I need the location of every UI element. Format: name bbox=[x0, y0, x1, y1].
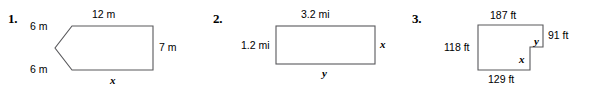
problem-3-bottom-label: 129 ft bbox=[488, 74, 514, 85]
rectangle-shape bbox=[200, 0, 400, 102]
problem-1-upper-left-label: 6 m bbox=[30, 21, 48, 32]
problem-1-bottom-variable: x bbox=[110, 75, 116, 86]
problem-3-top-label: 187 ft bbox=[490, 10, 516, 21]
problem-3-inner-horizontal-variable: x bbox=[519, 54, 525, 65]
l-shape-outline bbox=[478, 25, 543, 70]
problem-3-right-label: 91 ft bbox=[548, 30, 568, 41]
problem-2-bottom-variable: y bbox=[322, 68, 327, 79]
problem-3: 3. 187 ft 118 ft 91 ft 129 ft y x bbox=[400, 0, 599, 102]
problem-2-left-label: 1.2 mi bbox=[241, 40, 270, 51]
problem-1-right-label: 7 m bbox=[159, 42, 177, 53]
problem-1-lower-left-label: 6 m bbox=[30, 64, 48, 75]
problem-2-top-label: 3.2 mi bbox=[301, 9, 330, 20]
pentagon-arrow-outline bbox=[55, 26, 153, 70]
problem-3-inner-vertical-variable: y bbox=[534, 36, 539, 47]
problem-2-right-variable: x bbox=[380, 39, 386, 50]
rectangle-outline bbox=[276, 26, 375, 64]
problem-3-left-label: 118 ft bbox=[444, 42, 470, 53]
worksheet-figures: 1. 12 m 6 m 6 m 7 m x 2. 3.2 mi 1.2 mi x… bbox=[0, 0, 599, 102]
problem-1: 1. 12 m 6 m 6 m 7 m x bbox=[0, 0, 200, 102]
problem-2-figure bbox=[200, 0, 400, 102]
problem-2: 2. 3.2 mi 1.2 mi x y bbox=[200, 0, 400, 102]
problem-1-top-label: 12 m bbox=[92, 9, 115, 20]
